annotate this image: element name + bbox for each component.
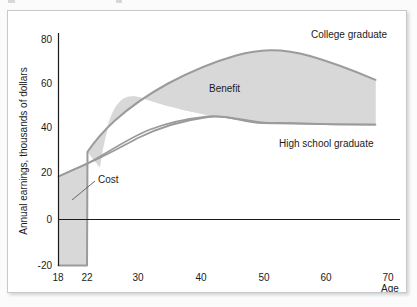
cost-region-2 [59, 163, 88, 265]
figure-panel: 80 60 40 20 0 -20 18 22 30 40 50 60 70 A… [7, 10, 407, 293]
x-tick-40: 40 [195, 272, 207, 283]
y-axis-title: Annual earnings, thousands of dollars [18, 67, 29, 234]
x-tick-70: 70 [382, 272, 394, 283]
scan-artifact [116, 0, 122, 3]
x-axis-title: Age [381, 283, 399, 292]
y-tick-neg20: -20 [38, 260, 53, 271]
y-tick-20: 20 [41, 167, 53, 178]
page-root: 80 60 40 20 0 -20 18 22 30 40 50 60 70 A… [0, 0, 417, 307]
y-tick-0: 0 [46, 214, 52, 225]
x-tick-18: 18 [52, 272, 64, 283]
cost-label: Cost [98, 174, 119, 185]
y-tick-80: 80 [41, 34, 53, 45]
x-tick-50: 50 [258, 272, 270, 283]
x-tick-60: 60 [320, 272, 332, 283]
y-tick-60: 60 [41, 78, 53, 89]
earnings-chart: 80 60 40 20 0 -20 18 22 30 40 50 60 70 A… [8, 11, 406, 292]
y-tick-40: 40 [41, 122, 53, 133]
benefit-label: Benefit [209, 83, 240, 94]
x-tick-22: 22 [81, 272, 93, 283]
college-graduate-label: College graduate [311, 29, 388, 40]
high-school-graduate-label: High school graduate [279, 138, 374, 149]
x-tick-30: 30 [132, 272, 144, 283]
scan-artifact [8, 0, 15, 3]
